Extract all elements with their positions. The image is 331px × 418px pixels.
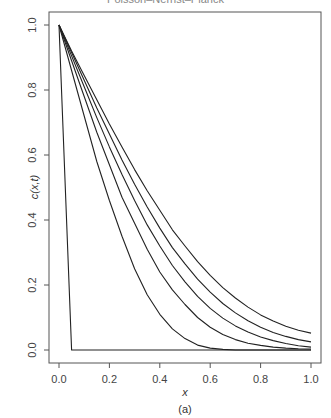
x-tick-label: 1.0 [303,373,318,385]
y-axis-label: c(x,t) [28,174,40,199]
figure-caption: (a) [178,403,191,415]
series-line-t2 [59,25,311,349]
x-tick-label: 0.0 [51,373,66,385]
series-line-t4 [59,25,311,342]
series-line-t3 [59,25,311,347]
x-tick-label: 0.6 [203,373,218,385]
series-line-t5 [59,25,311,333]
plot-frame [49,12,321,363]
x-tick-label: 0.2 [102,373,117,385]
x-axis-label: x [181,386,188,398]
y-tick-label: 0.2 [26,277,38,292]
y-tick-label: 0.8 [26,82,38,97]
series-line-t1 [59,25,311,350]
data-lines [59,25,311,350]
x-axis: 0.00.20.40.60.81.0 [51,363,318,385]
x-tick-label: 0.4 [152,373,167,385]
series-line-t0 [59,25,311,350]
y-tick-label: 0.6 [26,147,38,162]
x-tick-label: 0.8 [253,373,268,385]
line-chart: 0.00.20.40.60.81.0 0.00.20.40.60.81.0 x … [0,0,331,418]
y-tick-label: 0.4 [26,212,38,227]
y-tick-label: 0.0 [26,342,38,357]
y-tick-label: 1.0 [26,17,38,32]
